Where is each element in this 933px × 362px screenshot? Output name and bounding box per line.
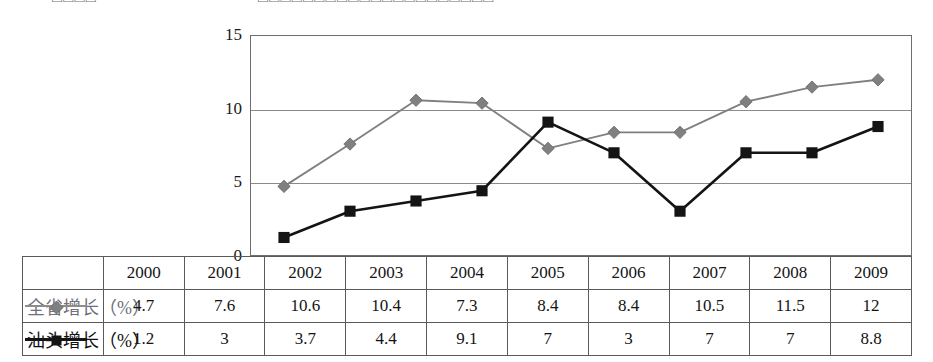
year-header-2007: 2007: [669, 257, 750, 290]
marker-square: [872, 121, 883, 132]
y-tick-15: 15: [202, 25, 242, 45]
marker-diamond: [410, 94, 422, 106]
diamond-icon: [49, 300, 64, 320]
marker-diamond: [806, 81, 818, 93]
cell-province-2002: 10.6: [265, 290, 346, 323]
marker-diamond: [476, 97, 488, 109]
legend-shantou: 汕头增长（%）: [23, 323, 104, 356]
year-header-2004: 2004: [427, 257, 508, 290]
series-line-province: [284, 80, 878, 187]
cell-province-2009: 12: [831, 290, 912, 323]
series-lines: [251, 36, 911, 255]
cell-province-2005: 8.4: [507, 290, 588, 323]
cell-province-2003: 10.4: [346, 290, 427, 323]
marker-square: [608, 147, 619, 158]
year-header-2001: 2001: [184, 257, 265, 290]
data-table: 2000 2001 2002 2003 2004 2005 2006 2007 …: [22, 256, 912, 356]
legend-province: 全省增长（%）: [23, 290, 104, 323]
marker-square: [674, 206, 685, 217]
marker-diamond: [872, 74, 884, 86]
y-tick-10: 10: [202, 99, 242, 119]
marker-diamond: [344, 138, 356, 150]
marker-diamond: [674, 126, 686, 138]
marker-diamond: [542, 142, 554, 154]
marker-diamond: [740, 96, 752, 108]
cell-shantou-2006: 3: [588, 323, 669, 356]
marker-square: [542, 117, 553, 128]
marker-square: [740, 147, 751, 158]
y-axis-tick-labels: 15 10 5 0: [196, 35, 242, 256]
table-header-row: 2000 2001 2002 2003 2004 2005 2006 2007 …: [23, 257, 912, 290]
marker-square: [278, 232, 289, 243]
cell-shantou-2002: 3.7: [265, 323, 346, 356]
year-header-2008: 2008: [750, 257, 831, 290]
year-header-2002: 2002: [265, 257, 346, 290]
table-row-shantou: 汕头增长（%） 1.2 3 3.7 4.4 9.1 7 3 7 7 8.8: [23, 323, 912, 356]
marker-square: [476, 185, 487, 196]
marker-square: [344, 206, 355, 217]
marker-diamond: [278, 180, 290, 192]
cell-province-2008: 11.5: [750, 290, 831, 323]
cropped-text-fragment: □□□□ □□□□□□□□□□□□□□□□□□□□□: [0, 0, 933, 20]
chart-page: □□□□ □□□□□□□□□□□□□□□□□□□□□ 15 10 5 0 200…: [0, 0, 933, 362]
text-fragment-right: □□□□□□□□□□□□□□□□□□□□□: [258, 0, 495, 7]
cell-province-2001: 7.6: [184, 290, 265, 323]
table-corner-cell: [23, 257, 104, 290]
cell-province-2004: 7.3: [427, 290, 508, 323]
plot-area: [250, 35, 912, 256]
square-icon: [49, 333, 64, 353]
cell-province-2007: 10.5: [669, 290, 750, 323]
year-header-2009: 2009: [831, 257, 912, 290]
year-header-2006: 2006: [588, 257, 669, 290]
cell-shantou-2003: 4.4: [346, 323, 427, 356]
cell-shantou-2009: 8.8: [831, 323, 912, 356]
table-row-province: 全省增长（%） 4.7 7.6 10.6 10.4 7.3 8.4 8.4 10…: [23, 290, 912, 323]
text-fragment-left: □□□□: [52, 0, 97, 7]
y-tick-5: 5: [202, 172, 242, 192]
year-header-2000: 2000: [103, 257, 184, 290]
cell-shantou-2001: 3: [184, 323, 265, 356]
cell-shantou-2008: 7: [750, 323, 831, 356]
year-header-2003: 2003: [346, 257, 427, 290]
marker-square: [410, 195, 421, 206]
cell-shantou-2004: 9.1: [427, 323, 508, 356]
marker-square: [806, 147, 817, 158]
marker-diamond: [608, 126, 620, 138]
cell-shantou-2007: 7: [669, 323, 750, 356]
year-header-2005: 2005: [507, 257, 588, 290]
cell-province-2006: 8.4: [588, 290, 669, 323]
cell-shantou-2005: 7: [507, 323, 588, 356]
